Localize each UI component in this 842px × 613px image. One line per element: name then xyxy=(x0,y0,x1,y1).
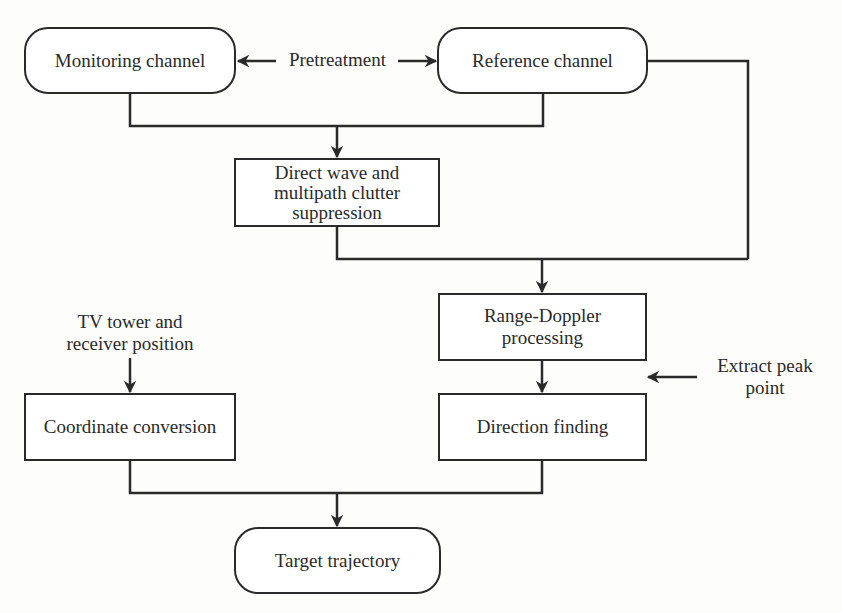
reference-bypass xyxy=(647,61,748,259)
reference-channel-node: Reference channel xyxy=(437,27,648,94)
direction-finding-node: Direction finding xyxy=(438,393,647,461)
pretreatment-label: Pretreatment xyxy=(280,49,395,71)
monitoring-channel-node: Monitoring channel xyxy=(24,27,236,94)
range-doppler-node: Range-Doppler processing xyxy=(438,293,647,361)
join-channels xyxy=(130,93,543,126)
reference-channel-label: Reference channel xyxy=(472,50,613,72)
monitoring-channel-label: Monitoring channel xyxy=(55,50,205,72)
extract-peak-label: Extract peak point xyxy=(705,355,825,399)
join-bottom xyxy=(130,460,542,493)
coordinate-conversion-node: Coordinate conversion xyxy=(24,393,236,461)
suppression-out xyxy=(337,226,748,259)
tv-tower-label: TV tower and receiver position xyxy=(50,311,210,355)
target-trajectory-node: Target trajectory xyxy=(234,527,441,594)
suppression-node: Direct wave and multipath clutter suppre… xyxy=(234,158,440,227)
